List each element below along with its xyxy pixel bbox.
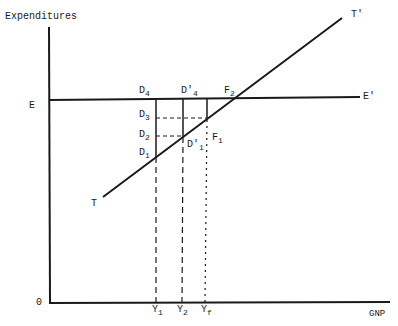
fiscal-policy-diagram xyxy=(0,0,398,326)
E-prime-label: E' xyxy=(363,92,375,102)
y-axis xyxy=(49,27,50,303)
D3-label: D3 xyxy=(139,110,150,122)
origin-label: 0 xyxy=(36,298,42,308)
Y2-label: Y2 xyxy=(177,305,188,317)
E-tick-label: E xyxy=(29,101,35,111)
x-axis-label: GNP xyxy=(369,310,385,319)
tax-line xyxy=(103,18,342,197)
D1-label: D1 xyxy=(139,148,150,160)
F2-label: F2 xyxy=(224,86,235,98)
expenditure-line xyxy=(49,97,360,100)
T-prime-label: T' xyxy=(351,10,363,20)
D2-label: D2 xyxy=(139,130,150,142)
D1-prime-label: D'1 xyxy=(187,140,204,152)
dashed-Y2 xyxy=(182,137,183,302)
D4-label: D4 xyxy=(139,86,150,98)
T-label: T xyxy=(91,199,97,209)
dashed-Yf xyxy=(205,120,207,302)
Y1-label: Y1 xyxy=(152,305,163,317)
y-axis-label: Expenditures xyxy=(5,12,77,22)
Yf-label: Yf xyxy=(201,305,212,317)
D4-prime-label: D'4 xyxy=(181,86,198,98)
F1-label: F1 xyxy=(212,133,223,145)
x-axis xyxy=(49,302,390,303)
